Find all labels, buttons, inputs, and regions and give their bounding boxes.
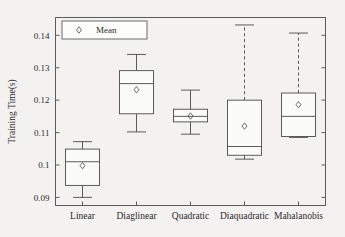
box-body xyxy=(174,109,208,122)
y-tick-label: 0.14 xyxy=(34,31,50,41)
x-axis-label-diaglinear: Diaglinear xyxy=(116,211,157,221)
box-body xyxy=(282,93,316,136)
box-body xyxy=(120,71,154,114)
x-axis-label-diaquadratic: Diaquadratic xyxy=(220,211,269,221)
chart-canvas: 0.090.10.110.120.130.14 Training Time(s)… xyxy=(0,0,345,237)
box-plot-chart: 0.090.10.110.120.130.14 Training Time(s)… xyxy=(0,0,345,237)
x-axis-label-quadratic: Quadratic xyxy=(172,211,209,221)
x-axis-label-linear: Linear xyxy=(70,211,96,221)
y-tick-label: 0.09 xyxy=(34,193,50,203)
box-body xyxy=(66,149,100,185)
y-axis-title: Training Time(s) xyxy=(7,79,18,143)
y-tick-label: 0.11 xyxy=(34,128,49,138)
box-body xyxy=(228,100,262,155)
y-tick-label: 0.12 xyxy=(34,95,50,105)
y-axis-label: Training Time(s) xyxy=(7,79,18,143)
y-tick-label: 0.1 xyxy=(38,160,49,170)
y-tick-label: 0.13 xyxy=(34,63,50,73)
chart-legend: Mean xyxy=(62,21,147,39)
legend-label-mean: Mean xyxy=(96,25,117,35)
x-axis-label-mahalanobis: Mahalanobis xyxy=(274,211,323,221)
